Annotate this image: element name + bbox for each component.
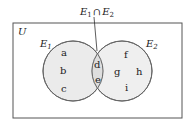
element-g: g	[114, 66, 121, 77]
intersection-label: E1∩E2	[79, 6, 114, 19]
venn-diagram: U E1 E2 E1∩E2 a b c d e f g h i	[0, 0, 189, 125]
element-b: b	[60, 65, 66, 76]
element-i: i	[125, 82, 128, 93]
element-c: c	[61, 83, 67, 94]
element-e: e	[95, 74, 101, 85]
universe-label: U	[18, 26, 27, 37]
element-d: d	[94, 59, 101, 70]
element-a: a	[61, 47, 67, 58]
element-h: h	[136, 66, 143, 77]
